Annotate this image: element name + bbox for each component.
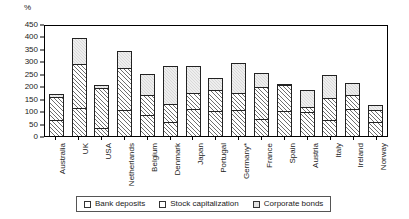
stacked-bar[interactable] [254, 73, 269, 136]
y-axis-tick-label: 0 [34, 133, 38, 141]
bar-segment-corporate-bonds[interactable] [323, 76, 336, 99]
x-axis-label-slot: Italy [323, 141, 338, 189]
bar-column[interactable] [208, 26, 223, 136]
stacked-bar[interactable] [322, 75, 337, 136]
stacked-bar[interactable] [231, 63, 246, 136]
x-axis-label-slot: Belgium [140, 141, 155, 189]
legend-item[interactable]: Bank deposits [84, 200, 145, 208]
bar-segment-stock-capitalization[interactable] [369, 111, 382, 123]
stacked-bar[interactable] [300, 90, 315, 136]
bar-column[interactable] [277, 26, 292, 136]
x-axis-labels: AustraliaUKUSANetherlandsBelgiumDenmarkJ… [44, 141, 388, 189]
y-axis-unit-label: % [24, 3, 31, 12]
bar-segment-corporate-bonds[interactable] [141, 75, 154, 96]
bar-column[interactable] [300, 26, 315, 136]
bar-segment-bank-deposits[interactable] [369, 123, 382, 136]
bar-segment-corporate-bonds[interactable] [301, 91, 314, 108]
bar-segment-corporate-bonds[interactable] [118, 52, 131, 69]
bar-segment-corporate-bonds[interactable] [232, 64, 245, 93]
bar-segment-corporate-bonds[interactable] [209, 79, 222, 91]
stacked-bar[interactable] [72, 38, 87, 136]
bar-column[interactable] [117, 26, 132, 136]
x-axis-tick-mark [284, 137, 285, 140]
bar-segment-bank-deposits[interactable] [255, 120, 268, 136]
stacked-bar[interactable] [277, 84, 292, 136]
x-axis-label-slot: Australia [48, 141, 63, 189]
bar-segment-bank-deposits[interactable] [141, 116, 154, 136]
legend-item[interactable]: Corporate bonds [253, 200, 324, 208]
stacked-bar[interactable] [208, 78, 223, 136]
bar-column[interactable] [368, 26, 383, 136]
x-axis-tick-mark [101, 137, 102, 140]
bar-segment-corporate-bonds[interactable] [164, 67, 177, 105]
plot-area [44, 25, 388, 137]
x-axis-label-slot: France [254, 141, 269, 189]
bar-segment-stock-capitalization[interactable] [323, 99, 336, 121]
x-axis-label-slot: Portugal [208, 141, 223, 189]
legend-item[interactable]: Stock capitalization [159, 200, 238, 208]
bar-segment-stock-capitalization[interactable] [232, 94, 245, 112]
bar-segment-bank-deposits[interactable] [118, 111, 131, 136]
bar-segment-bank-deposits[interactable] [278, 112, 291, 136]
x-axis-category-label: Italy [335, 143, 343, 158]
x-axis-category-label: UK [82, 143, 90, 154]
x-axis-tick-mark [307, 137, 308, 140]
x-axis-label-slot: Austria [300, 141, 315, 189]
bar-column[interactable] [322, 26, 337, 136]
bar-segment-stock-capitalization[interactable] [278, 86, 291, 112]
bar-column[interactable] [345, 26, 360, 136]
stacked-bar[interactable] [94, 85, 109, 136]
x-axis-category-label: USA [105, 143, 113, 159]
bar-segment-stock-capitalization[interactable] [187, 94, 200, 110]
bar-segment-corporate-bonds[interactable] [255, 74, 268, 88]
bar-segment-stock-capitalization[interactable] [255, 88, 268, 120]
bar-segment-corporate-bonds[interactable] [346, 84, 359, 96]
x-axis-label-slot: Denmark [163, 141, 178, 189]
bar-segment-bank-deposits[interactable] [73, 109, 86, 136]
x-axis-tick-mark [376, 137, 377, 140]
bar-segment-corporate-bonds[interactable] [73, 39, 86, 65]
bar-segment-corporate-bonds[interactable] [187, 67, 200, 94]
bar-segment-stock-capitalization[interactable] [73, 65, 86, 109]
chart-container: % 450400350300250200150100500 AustraliaU… [0, 0, 409, 219]
x-axis-label-slot: UK [71, 141, 86, 189]
bar-segment-bank-deposits[interactable] [301, 113, 314, 136]
bar-segment-bank-deposits[interactable] [164, 123, 177, 136]
stacked-bar[interactable] [140, 74, 155, 136]
bar-column[interactable] [163, 26, 178, 136]
bar-segment-stock-capitalization[interactable] [118, 69, 131, 111]
y-axis-tick-label: 300 [25, 58, 38, 66]
x-axis-category-label: Ireland [357, 143, 365, 167]
legend-item-label: Bank deposits [95, 200, 145, 208]
bar-column[interactable] [49, 26, 64, 136]
bar-segment-bank-deposits[interactable] [232, 111, 245, 136]
stacked-bar[interactable] [345, 83, 360, 137]
bar-segment-bank-deposits[interactable] [209, 112, 222, 136]
bar-segment-bank-deposits[interactable] [50, 121, 63, 136]
bar-segment-stock-capitalization[interactable] [209, 91, 222, 112]
bar-segment-stock-capitalization[interactable] [346, 96, 359, 111]
bar-segment-bank-deposits[interactable] [95, 129, 108, 136]
x-axis-category-label: Belgium [151, 143, 159, 172]
stacked-bar[interactable] [117, 51, 132, 136]
bar-segment-stock-capitalization[interactable] [95, 89, 108, 129]
stacked-bar[interactable] [368, 105, 383, 136]
bar-segment-stock-capitalization[interactable] [164, 105, 177, 123]
legend-swatch-icon [84, 201, 91, 208]
stacked-bar[interactable] [163, 66, 178, 136]
bar-segment-stock-capitalization[interactable] [50, 98, 63, 121]
x-axis-category-label: Australia [59, 143, 67, 174]
stacked-bar[interactable] [186, 66, 201, 136]
bar-segment-bank-deposits[interactable] [187, 110, 200, 136]
bar-segment-bank-deposits[interactable] [323, 121, 336, 136]
bar-segment-stock-capitalization[interactable] [141, 96, 154, 116]
x-axis-category-label: Portugal [220, 143, 228, 173]
bar-column[interactable] [72, 26, 87, 136]
bar-column[interactable] [186, 26, 201, 136]
bar-column[interactable] [94, 26, 109, 136]
bar-segment-bank-deposits[interactable] [346, 110, 359, 136]
bar-column[interactable] [231, 26, 246, 136]
bar-column[interactable] [254, 26, 269, 136]
bar-column[interactable] [140, 26, 155, 136]
stacked-bar[interactable] [49, 94, 64, 136]
